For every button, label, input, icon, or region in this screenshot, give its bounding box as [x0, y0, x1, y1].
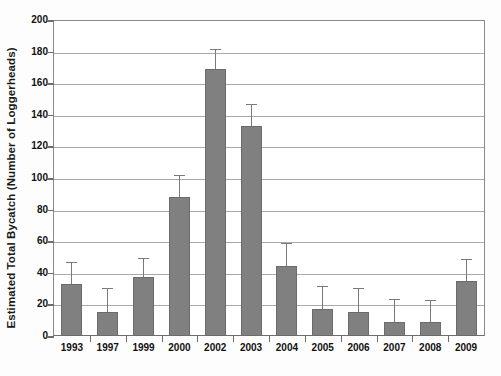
bar[interactable] [312, 309, 333, 336]
error-bar-stem [358, 289, 359, 313]
bar[interactable] [61, 284, 82, 336]
bar-series-group [54, 20, 484, 336]
y-axis-tickmark [47, 178, 54, 180]
x-axis-tick-label: 2003 [233, 342, 269, 353]
error-bar-stem [71, 263, 72, 284]
y-axis-tickmark [47, 146, 54, 148]
bar[interactable] [348, 312, 369, 336]
bar-group[interactable] [169, 20, 190, 336]
bar[interactable] [205, 69, 226, 336]
error-bar-cap [102, 288, 113, 289]
bar-group[interactable] [420, 20, 441, 336]
y-axis-tickmark [47, 210, 54, 212]
y-axis-tick-label: 0 [22, 331, 48, 341]
bar-group[interactable] [97, 20, 118, 336]
error-bar-cap [317, 286, 328, 287]
y-axis-tickmark [47, 304, 54, 306]
x-axis-tick-label: 2002 [197, 342, 233, 353]
error-bar-cap [461, 259, 472, 260]
y-axis-tickmark [47, 115, 54, 117]
y-axis-tick-label: 160 [22, 78, 48, 88]
x-axis-tick-label: 2000 [162, 342, 198, 353]
y-axis-tick-label: 200 [22, 15, 48, 25]
x-axis-tick-label: 1999 [126, 342, 162, 353]
error-bar-cap [174, 175, 185, 176]
error-bar-stem [215, 50, 216, 69]
bar-group[interactable] [205, 20, 226, 336]
y-axis-tick-label: 120 [22, 141, 48, 151]
bar[interactable] [97, 312, 118, 336]
bar-group[interactable] [241, 20, 262, 336]
error-bar-stem [143, 259, 144, 277]
bar-group[interactable] [348, 20, 369, 336]
error-bar-cap [66, 262, 77, 263]
x-axis-tick-label: 2005 [305, 342, 341, 353]
y-axis-tickmark [47, 83, 54, 85]
y-axis-tickmark [47, 241, 54, 243]
y-axis-title: Estimated Total Bycatch (Number of Logge… [0, 0, 22, 376]
x-axis-tick-label: 2009 [448, 342, 484, 353]
y-axis-tick-label: 40 [22, 268, 48, 278]
y-axis-tick-label: 80 [22, 205, 48, 215]
bar-group[interactable] [384, 20, 405, 336]
bar-group[interactable] [276, 20, 297, 336]
x-axis-tick-label: 1997 [90, 342, 126, 353]
error-bar-cap [389, 299, 400, 300]
bar[interactable] [133, 277, 154, 336]
error-bar-cap [138, 258, 149, 259]
bar[interactable] [456, 281, 477, 336]
error-bar-cap [353, 288, 364, 289]
bar[interactable] [241, 126, 262, 336]
y-axis-tickmark [47, 336, 54, 338]
x-axis-tick-label: 2008 [412, 342, 448, 353]
x-axis-tick-label: 2006 [341, 342, 377, 353]
y-axis-tick-label: 180 [22, 47, 48, 57]
y-axis-tick-label: 100 [22, 173, 48, 183]
error-bar-cap [425, 300, 436, 301]
error-bar-stem [179, 176, 180, 197]
y-axis-tickmark [47, 52, 54, 54]
y-axis-tickmark [47, 273, 54, 275]
bar[interactable] [276, 266, 297, 336]
x-axis-tick-label-group: 1993199719992000200220032004200520062007… [54, 342, 484, 362]
y-axis-tick-label-group: 020406080100120140160180200 [22, 13, 48, 343]
x-axis-tick-label: 1993 [54, 342, 90, 353]
bar[interactable] [169, 197, 190, 336]
error-bar-cap [246, 104, 257, 105]
bar-group[interactable] [312, 20, 333, 336]
bar-group[interactable] [61, 20, 82, 336]
y-axis-tick-label: 20 [22, 299, 48, 309]
error-bar-cap [281, 243, 292, 244]
error-bar-stem [107, 289, 108, 312]
x-axis-tick-label: 2007 [377, 342, 413, 353]
error-bar-cap [210, 49, 221, 50]
error-bar-stem [322, 287, 323, 309]
bar[interactable] [384, 322, 405, 336]
x-axis-tick-label: 2004 [269, 342, 305, 353]
bar-group[interactable] [456, 20, 477, 336]
error-bar-stem [394, 300, 395, 322]
error-bar-stem [430, 301, 431, 322]
y-axis-tick-label: 140 [22, 110, 48, 120]
error-bar-stem [251, 105, 252, 126]
y-axis-tick-label: 60 [22, 236, 48, 246]
error-bar-stem [466, 260, 467, 281]
bar-group[interactable] [133, 20, 154, 336]
bar-chart-figure: Estimated Total Bycatch (Number of Logge… [0, 0, 501, 376]
y-axis-tickmark [47, 20, 54, 22]
error-bar-stem [286, 244, 287, 266]
bar[interactable] [420, 322, 441, 336]
